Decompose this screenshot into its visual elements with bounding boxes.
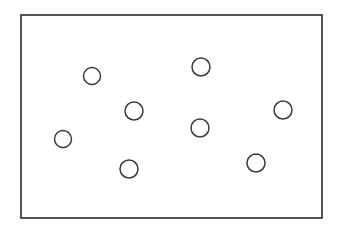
scatter-figure	[0, 0, 344, 239]
figure-container	[0, 0, 344, 239]
